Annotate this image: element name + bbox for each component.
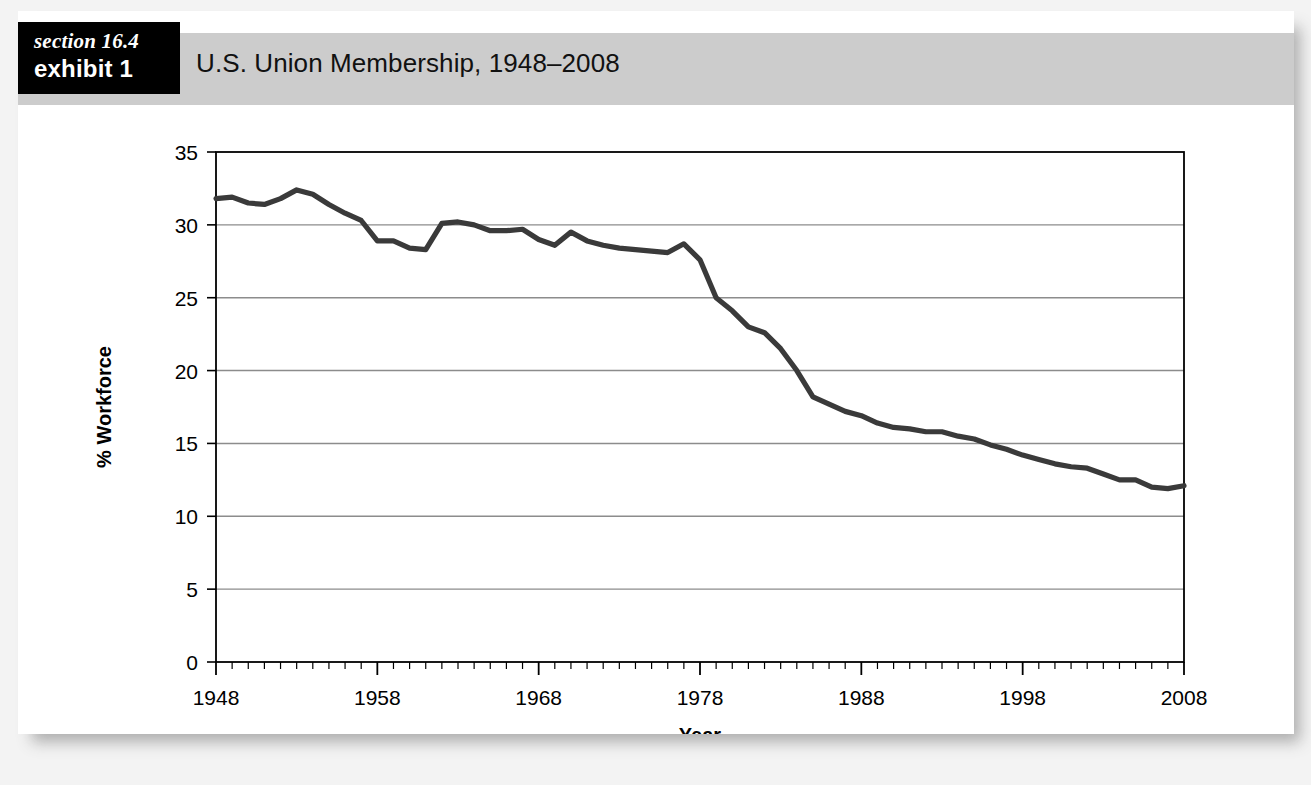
y-major-ticks-group [207,152,216,662]
y-axis-title: % Workforce [93,346,115,468]
x-tick-label: 1948 [193,686,240,709]
y-tick-label: 0 [186,651,198,674]
exhibit-label: exhibit 1 [34,54,180,83]
y-tick-label: 25 [175,287,198,310]
plot-border [216,152,1184,662]
y-tick-label: 10 [175,505,198,528]
y-tick-labels-group: 05101520253035 [175,141,198,674]
y-tick-label: 35 [175,141,198,164]
x-tick-label: 1978 [677,686,724,709]
x-tick-label: 1958 [354,686,401,709]
y-tick-label: 5 [186,578,198,601]
section-label: section 16.4 [34,29,180,54]
exhibit-tag: section 16.4 exhibit 1 [18,22,180,94]
x-tick-label: 1998 [999,686,1046,709]
x-tick-labels-group: 1948195819681978198819982008 [193,686,1208,709]
exhibit-figure: Why Are There Labor Unions? Similarly Sk… [0,0,1311,785]
x-tick-label: 2008 [1161,686,1208,709]
x-tick-label: 1988 [838,686,885,709]
plot-frame [216,152,1184,662]
chart-region: 05101520253035 1948195819681978198819982… [18,105,1294,734]
y-tick-label: 20 [175,360,198,383]
exhibit-title: U.S. Union Membership, 1948–2008 [196,48,620,79]
x-tick-label: 1968 [515,686,562,709]
y-tick-label: 30 [175,214,198,237]
x-axis-title: Year [679,724,721,734]
y-tick-label: 15 [175,432,198,455]
union-membership-line-chart: 05101520253035 1948195819681978198819982… [18,105,1294,734]
gridlines-group [216,225,1184,589]
